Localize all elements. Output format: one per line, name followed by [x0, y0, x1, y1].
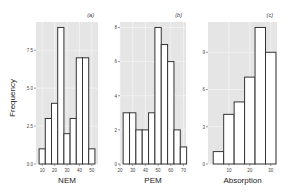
x-tick-label: 50	[156, 168, 162, 173]
histogram-bar	[168, 62, 174, 164]
panel-label: (a)	[87, 12, 94, 18]
y-tick-label: 3	[202, 125, 205, 130]
x-axis-title: Absorption	[223, 176, 261, 185]
x-tick-label: 40	[143, 168, 149, 173]
y-tick-label: 2.5	[27, 124, 34, 129]
y-tick-label: 7.5	[27, 48, 34, 53]
y-tick-label: 2	[114, 128, 117, 133]
y-tick-label: 4	[114, 94, 117, 99]
x-tick-label: 10	[40, 168, 46, 173]
y-tick-label: 6	[202, 87, 205, 92]
y-tick-label: 5.0	[27, 86, 34, 91]
x-tick-label: 50	[89, 168, 95, 173]
histogram-bar	[123, 113, 129, 164]
histogram-bar	[180, 147, 186, 164]
histogram-bar	[213, 152, 223, 164]
histogram-bar	[234, 102, 244, 164]
x-tick-label: 70	[181, 168, 187, 173]
histogram-bar	[89, 149, 95, 164]
histogram-bar	[64, 134, 70, 164]
x-tick-label: 30	[64, 168, 70, 173]
panel-c: 0369102030Absorption(c)	[202, 12, 277, 185]
histogram-bar	[136, 130, 142, 164]
x-tick-label: 40	[77, 168, 83, 173]
histogram-bar	[130, 113, 136, 164]
histogram-bar	[245, 77, 255, 164]
x-tick-label: 10	[226, 168, 232, 173]
panel-label: (c)	[267, 12, 274, 18]
histogram-bar	[266, 52, 276, 164]
histogram-figure: 0.02.55.07.51020304050NEM(a)024682030405…	[0, 0, 291, 195]
histogram-bar	[155, 27, 161, 164]
y-tick-label: 0	[114, 162, 117, 167]
histogram-bar	[39, 149, 45, 164]
histogram-bar	[52, 103, 58, 164]
x-tick-label: 20	[52, 168, 58, 173]
y-tick-label: 0	[202, 162, 205, 167]
panel-b: 02468203040506070PEM(b)	[114, 12, 186, 185]
histogram-bar	[45, 118, 51, 164]
histogram-bar	[255, 27, 265, 164]
x-axis-title: NEM	[58, 176, 76, 185]
x-tick-label: 20	[117, 168, 123, 173]
histogram-bar	[174, 130, 180, 164]
x-tick-label: 20	[247, 168, 253, 173]
histogram-bar	[83, 58, 89, 164]
panel-a: 0.02.55.07.51020304050NEM(a)	[27, 12, 98, 185]
panel-label: (b)	[175, 12, 182, 18]
histogram-bar	[161, 45, 167, 164]
histogram-bar	[142, 130, 148, 164]
x-tick-label: 30	[268, 168, 274, 173]
histogram-bar	[149, 113, 155, 164]
y-tick-label: 0.0	[27, 162, 34, 167]
y-tick-label: 6	[114, 59, 117, 64]
y-tick-label: 9	[202, 50, 205, 55]
x-axis-title: PEM	[144, 176, 162, 185]
y-tick-label: 8	[114, 25, 117, 30]
histogram-bar	[224, 114, 234, 164]
histogram-bar	[58, 27, 64, 164]
x-tick-label: 30	[130, 168, 136, 173]
histogram-bar	[76, 58, 82, 164]
x-tick-label: 60	[168, 168, 174, 173]
histogram-bar	[70, 118, 76, 164]
